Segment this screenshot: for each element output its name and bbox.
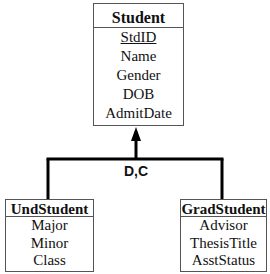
entity-title: Student	[94, 4, 183, 28]
entity-undstudent: UndStudent Major Minor Class	[5, 199, 94, 272]
entity-title: UndStudent	[6, 200, 93, 217]
attribute: DOB	[94, 85, 183, 104]
attribute: AdmitDate	[94, 104, 183, 123]
attribute-primary-key: StdID	[94, 28, 183, 47]
entity-student: Student StdID Name Gender DOB AdmitDate	[93, 3, 184, 126]
attribute: Name	[94, 47, 183, 66]
entity-gradstudent: GradStudent Advisor ThesisTitle AsstStat…	[180, 199, 267, 272]
entity-title: GradStudent	[181, 200, 266, 217]
attribute: Class	[6, 252, 93, 270]
attribute: Advisor	[181, 217, 266, 235]
attribute: AsstStatus	[181, 252, 266, 270]
attribute: Gender	[94, 66, 183, 85]
attribute: Minor	[6, 235, 93, 253]
attribute-list: Major Minor Class	[6, 217, 93, 270]
arrowhead-icon	[131, 127, 141, 141]
attribute-list: Advisor ThesisTitle AsstStatus	[181, 217, 266, 270]
attribute: ThesisTitle	[181, 235, 266, 253]
attribute-list: StdID Name Gender DOB AdmitDate	[94, 28, 183, 123]
attribute: Major	[6, 217, 93, 235]
constraint-label: D,C	[120, 163, 152, 179]
